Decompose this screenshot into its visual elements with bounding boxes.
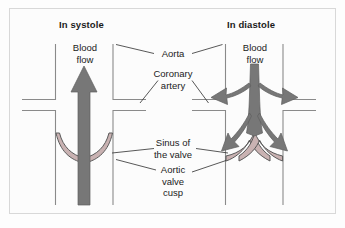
annotation-coronary-artery: Coronary artery — [144, 68, 202, 91]
annotation-sinus-of-valve-line2: the valve — [146, 149, 200, 161]
diagram-canvas: In systole In diastole Blood flow Blood … — [0, 0, 345, 228]
annotation-aorta-line1: Aorta — [153, 48, 193, 60]
diastole-blood-flow-label: Blood flow — [234, 42, 276, 65]
annotation-coronary-artery-line2: artery — [144, 80, 202, 92]
annotation-sinus-of-valve-line1: Sinus of — [146, 137, 200, 149]
annotation-sinus-of-valve: Sinus of the valve — [146, 137, 200, 160]
annotation-aorta: Aorta — [153, 48, 193, 60]
diastole-blood-flow-line2: flow — [234, 54, 276, 66]
panel-title-systole: In systole — [59, 19, 104, 30]
panel-title-diastole: In diastole — [227, 19, 275, 30]
annotation-aortic-valve-cusp-line1: Aortic — [150, 164, 196, 176]
systole-blood-flow-line2: flow — [64, 54, 106, 66]
diastole-blood-flow-line1: Blood — [234, 42, 276, 54]
annotation-aortic-valve-cusp: Aortic valve cusp — [150, 164, 196, 199]
diastole-panel-artwork — [192, 44, 316, 205]
systole-panel-artwork — [22, 44, 146, 205]
annotation-coronary-artery-line1: Coronary — [144, 68, 202, 80]
annotation-aortic-valve-cusp-line3: cusp — [150, 187, 196, 199]
annotation-aortic-valve-cusp-line2: valve — [150, 176, 196, 188]
systole-blood-flow-label: Blood flow — [64, 42, 106, 65]
systole-blood-flow-arrow — [71, 66, 97, 205]
systole-blood-flow-line1: Blood — [64, 42, 106, 54]
